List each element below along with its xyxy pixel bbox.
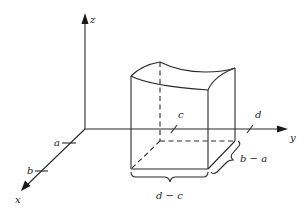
y-tick-label-d: d — [255, 109, 261, 120]
x-axis-arrowhead-icon — [21, 181, 31, 192]
width-brace-label: d − c — [156, 190, 183, 201]
top-surface-back-edge — [160, 62, 235, 72]
solid: d − c b − a — [131, 62, 267, 201]
x-tick-label-b: b — [27, 165, 33, 176]
y-tick-label-c: c — [178, 109, 184, 120]
y-axis: y c d — [85, 109, 296, 143]
depth-brace-label: b − a — [240, 153, 267, 164]
top-surface-left-edge — [131, 62, 160, 76]
top-surface-front-edge — [131, 76, 208, 90]
solid-over-rectangle-diagram: z y c d x a b — [0, 0, 308, 212]
base-left-edge-hidden — [131, 141, 160, 169]
z-axis-arrowhead-icon — [82, 13, 89, 24]
y-axis-arrowhead-icon — [277, 126, 288, 133]
x-tick-label-a: a — [54, 137, 60, 148]
z-axis-label: z — [89, 14, 96, 25]
x-axis: x a b — [15, 129, 85, 205]
depth-brace — [211, 141, 240, 174]
x-axis-label: x — [15, 194, 21, 205]
width-brace — [131, 172, 208, 182]
z-axis: z — [82, 13, 97, 129]
y-axis-label: y — [289, 132, 296, 143]
